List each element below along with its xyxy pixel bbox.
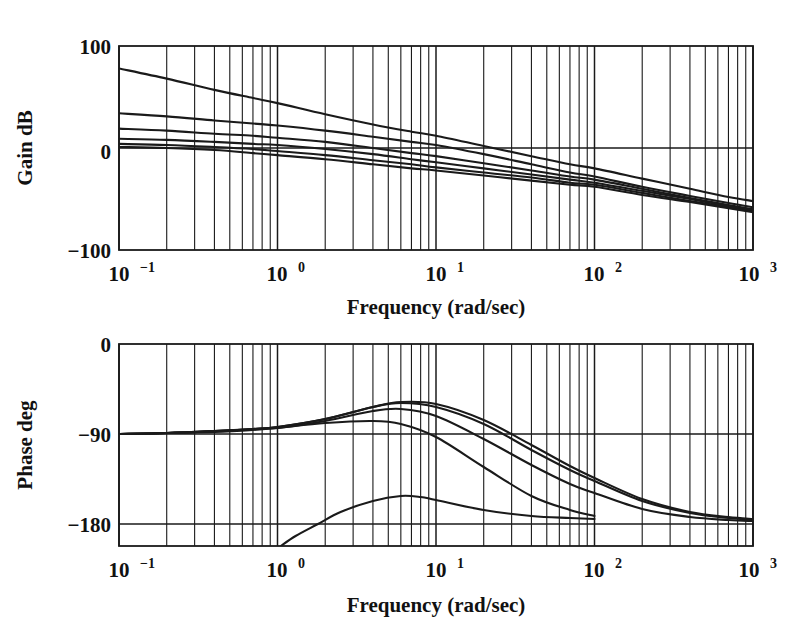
- gain-y-axis-title: Gain dB: [13, 110, 37, 185]
- phase-ytick-0: 0: [101, 333, 112, 357]
- gain-xtick-1e2-base: 10: [584, 262, 605, 286]
- gain-xtick-1e3-exp: 3: [770, 260, 777, 275]
- gain-xtick-1e3-base: 10: [739, 262, 760, 286]
- bode-plot-figure: 100 0 −100 Gain dB 10 −1 10 0 10 1 10 2: [0, 0, 789, 639]
- gain-xtick-1e0-exp: 0: [298, 260, 305, 275]
- phase-ytick-minus180: −180: [68, 513, 111, 537]
- gain-xtick-1e1-base: 10: [426, 262, 447, 286]
- phase-x-axis-title: Frequency (rad/sec): [347, 593, 526, 617]
- gain-ytick-0: 0: [101, 140, 112, 164]
- phase-xtick-1e0-exp: 0: [298, 556, 305, 571]
- gain-ytick-minus100: −100: [68, 239, 111, 263]
- phase-xtick-1e2-base: 10: [584, 558, 605, 582]
- phase-y-axis-title: Phase deg: [13, 400, 37, 490]
- phase-xtick-1e3-base: 10: [739, 558, 760, 582]
- gain-xtick-1e-1-exp: −1: [140, 260, 155, 275]
- phase-xtick-1e0-base: 10: [267, 558, 288, 582]
- gain-xtick-1e-1-base: 10: [109, 262, 130, 286]
- gain-xtick-1e1-exp: 1: [457, 260, 464, 275]
- gain-ytick-100: 100: [80, 35, 112, 59]
- phase-xtick-1e2-exp: 2: [615, 556, 622, 571]
- phase-xtick-1e-1-exp: −1: [140, 556, 155, 571]
- phase-xtick-1e1-base: 10: [426, 558, 447, 582]
- bode-plot-svg: 100 0 −100 Gain dB 10 −1 10 0 10 1 10 2: [0, 0, 789, 639]
- phase-xtick-1e3-exp: 3: [770, 556, 777, 571]
- gain-xtick-1e0-base: 10: [267, 262, 288, 286]
- gain-xtick-1e2-exp: 2: [615, 260, 622, 275]
- phase-ytick-minus90: −90: [78, 423, 111, 447]
- phase-xtick-1e-1-base: 10: [109, 558, 130, 582]
- gain-x-axis-title: Frequency (rad/sec): [347, 295, 526, 319]
- phase-xtick-1e1-exp: 1: [457, 556, 464, 571]
